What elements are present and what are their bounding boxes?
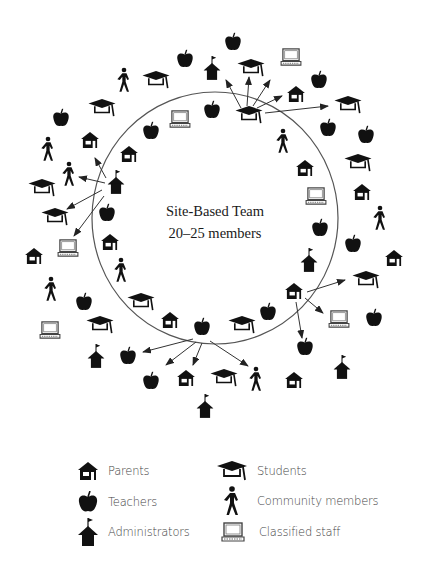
connection-arrow (307, 280, 345, 292)
administrator-schoolhouse-icon (197, 394, 214, 418)
teacher-apple-icon (366, 309, 381, 326)
parent-house-icon (101, 234, 119, 250)
student-mortarboard-icon (236, 106, 263, 123)
community-member-walking-icon (117, 68, 129, 92)
community-member-walking-icon (276, 129, 288, 153)
teacher-apple-icon (143, 372, 158, 389)
parent-house-icon (285, 372, 303, 388)
student-mortarboard-icon (211, 369, 238, 386)
parent-house-icon (287, 86, 305, 102)
legend-label: Students (257, 464, 307, 478)
teacher-apple-icon (320, 119, 335, 136)
teacher-apple-icon (143, 122, 158, 139)
teacher-apple-icon (194, 318, 209, 335)
teacher-apple-icon (311, 71, 326, 88)
administrator-schoolhouse-icon (334, 355, 351, 379)
student-mortarboard-icon (143, 71, 170, 88)
community-member-walking-icon (41, 137, 53, 161)
parent-house-icon (285, 283, 303, 299)
parent-house-icon (120, 146, 138, 162)
legend: Parents Teachers Administrators Students… (70, 455, 390, 565)
teacher-apple-icon (225, 33, 240, 50)
administrator-schoolhouse-icon (301, 248, 318, 272)
legend-label: Administrators (108, 525, 190, 539)
student-mortarboard-icon (87, 316, 114, 333)
administrator-schoolhouse-icon (88, 344, 105, 368)
student-mortarboard-icon (128, 293, 155, 310)
parent-house-icon (385, 250, 403, 266)
classified-staff-laptop-icon (170, 111, 190, 127)
administrator-schoolhouse-icon (108, 170, 125, 194)
parent-house-icon (81, 132, 99, 148)
connection-arrow (166, 342, 196, 365)
classified-staff-laptop-icon (40, 322, 60, 338)
connection-arrow (257, 96, 282, 108)
teacher-apple-icon (120, 347, 135, 364)
connection-arrow (247, 77, 249, 106)
community-member-walking-icon (114, 258, 126, 282)
parent-house-icon (177, 370, 195, 386)
classified-staff-laptop-icon (221, 522, 245, 542)
legend-item-classified-staff: Classified staff (221, 518, 340, 546)
legend-label: Community members (257, 494, 378, 508)
teacher-apple-icon (297, 338, 312, 355)
team-size: 20–25 members (140, 222, 290, 244)
classified-staff-laptop-icon (329, 311, 349, 327)
student-mortarboard-icon (335, 96, 362, 113)
teacher-apple-icon (78, 491, 98, 513)
teacher-apple-icon (53, 109, 68, 126)
student-mortarboard-icon (217, 461, 247, 481)
legend-item-community-members: Community members (223, 487, 378, 515)
administrator-schoolhouse-icon (204, 56, 221, 80)
community-member-walking-icon (373, 206, 385, 230)
community-member-walking-icon (44, 277, 56, 301)
team-title: Site-Based Team (140, 200, 290, 222)
connection-arrow (305, 298, 323, 313)
parent-house-icon (25, 248, 43, 264)
legend-item-parents: Parents (78, 457, 149, 485)
student-mortarboard-icon (353, 271, 380, 288)
legend-label: Parents (108, 464, 149, 478)
parent-house-icon (296, 160, 314, 176)
connection-arrow (95, 158, 106, 178)
parent-house-icon (161, 312, 179, 328)
community-member-walking-icon (249, 367, 261, 391)
student-mortarboard-icon (229, 316, 256, 333)
connection-arrow (193, 343, 202, 365)
teacher-apple-icon (260, 303, 275, 320)
teacher-apple-icon (204, 101, 219, 118)
classified-staff-laptop-icon (58, 240, 78, 256)
student-mortarboard-icon (89, 99, 116, 116)
classified-staff-laptop-icon (281, 49, 301, 65)
teacher-apple-icon (358, 126, 373, 143)
legend-item-teachers: Teachers (78, 488, 157, 516)
teacher-apple-icon (345, 235, 360, 252)
legend-item-administrators: Administrators (78, 518, 190, 546)
community-member-walking-icon (223, 486, 241, 516)
teacher-apple-icon (99, 204, 114, 221)
center-label: Site-Based Team 20–25 members (140, 200, 290, 244)
connection-arrow (79, 177, 105, 183)
teacher-apple-icon (312, 219, 327, 236)
student-mortarboard-icon (42, 208, 69, 225)
teacher-apple-icon (177, 50, 192, 67)
parent-house-icon (78, 462, 98, 480)
student-mortarboard-icon (29, 179, 56, 196)
site-based-team-diagram: Site-Based Team 20–25 members Parents Te… (0, 0, 432, 571)
community-member-walking-icon (62, 162, 74, 186)
legend-label: Teachers (108, 495, 157, 509)
legend-label: Classified staff (259, 525, 340, 539)
legend-item-students: Students (217, 457, 307, 485)
connection-arrow (74, 196, 104, 236)
connection-arrow (253, 80, 270, 106)
student-mortarboard-icon (238, 59, 265, 76)
administrator-schoolhouse-icon (78, 518, 98, 546)
student-mortarboard-icon (345, 154, 372, 171)
classified-staff-laptop-icon (306, 188, 326, 204)
parent-house-icon (353, 184, 371, 200)
teacher-apple-icon (76, 293, 91, 310)
connection-arrow (210, 341, 248, 366)
